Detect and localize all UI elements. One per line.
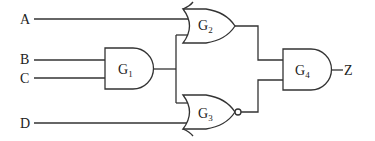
gate-g1-and: G1 xyxy=(105,48,153,89)
input-label-c: C xyxy=(20,71,29,86)
input-label-a: A xyxy=(20,12,31,27)
logic-circuit: A B C D G1 G2 G3 G4 Z xyxy=(0,0,375,141)
input-label-d: D xyxy=(20,116,30,131)
output-label-z: Z xyxy=(344,63,353,78)
gate-g4-and: G4 xyxy=(283,49,331,90)
gate-g3-nor: G3 xyxy=(183,95,241,136)
input-label-b: B xyxy=(20,52,29,67)
gate-g2-or: G2 xyxy=(183,2,235,43)
